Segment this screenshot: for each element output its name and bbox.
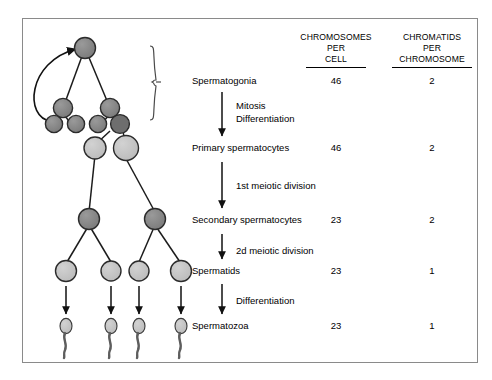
spermatogenesis-figure: CHROMOSOMES PER CELL CHROMATIDS PER CHRO… (0, 0, 492, 380)
column-header-chromosomes-line1: CHROMOSOMES (300, 32, 372, 43)
column-header-chromatids-line3: CHROMOSOME (390, 54, 474, 65)
process-label-second-meiosis: 2d meiotic division (236, 245, 314, 256)
process-label-first-meiosis: 1st meiotic division (236, 180, 316, 191)
spermatogonia-cells (45, 38, 129, 134)
primary-spermatocyte-cells (84, 136, 139, 161)
value-chromosomes-spermatids: 23 (300, 265, 372, 276)
value-chromatids-primary: 2 (390, 142, 474, 153)
column-header-rule-2 (392, 67, 472, 68)
process-label-mitosis: Mitosis (236, 100, 266, 111)
value-chromosomes-spermatozoa: 23 (300, 320, 372, 331)
value-chromosomes-primary: 46 (300, 142, 372, 153)
column-header-chromosomes-line2: PER (300, 43, 372, 54)
value-chromatids-spermatids: 1 (390, 265, 474, 276)
differentiation-arrows (66, 286, 181, 314)
stage-label-secondary-spermatocytes: Secondary spermatocytes (192, 214, 302, 225)
value-chromatids-spermatozoa: 1 (390, 320, 474, 331)
stage-label-spermatozoa: Spermatozoa (192, 320, 249, 331)
column-header-chromosomes-line3: CELL (300, 54, 372, 65)
secondary-spermatocyte-cells (79, 209, 166, 230)
stage-label-spermatogonia: Spermatogonia (192, 75, 256, 86)
value-chromatids-secondary: 2 (390, 214, 474, 225)
column-header-chromatids-line2: PER (390, 43, 474, 54)
stage-label-primary-spermatocytes: Primary spermatocytes (192, 142, 289, 153)
spermatogonia-grouping-brace (150, 46, 161, 120)
column-header-chromatids-line1: CHROMATIDS (390, 32, 474, 43)
spermatid-cells (56, 261, 192, 282)
process-label-differentiation-1: Differentiation (236, 113, 294, 124)
value-chromatids-spermatogonia: 2 (390, 75, 474, 86)
spermatozoa-cells (60, 318, 187, 358)
value-chromosomes-spermatogonia: 46 (300, 75, 372, 86)
process-label-differentiation-2: Differentiation (236, 295, 294, 306)
stage-label-spermatids: Spermatids (192, 265, 240, 276)
value-chromosomes-secondary: 23 (300, 214, 372, 225)
column-header-rule-1 (306, 67, 366, 68)
